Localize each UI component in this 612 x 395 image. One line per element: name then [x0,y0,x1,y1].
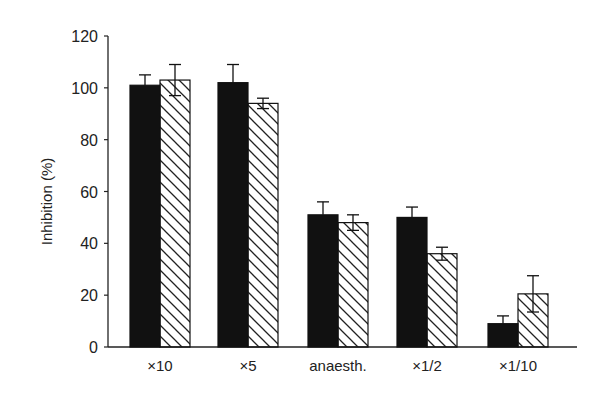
x-category-label: ×1/10 [499,357,537,374]
x-category-label: ×1/2 [412,357,442,374]
y-tick-label: 120 [71,28,98,45]
x-category-label: ×5 [239,357,256,374]
x-category-label: ×10 [147,357,172,374]
bars [130,65,548,347]
labels: 020406080100120Inhibition (%)×10×5anaest… [38,28,537,374]
y-tick-label: 80 [80,132,98,149]
bar-solid [488,324,518,347]
bar-hatched [248,103,278,347]
y-tick-label: 0 [89,339,98,356]
bar-chart: 020406080100120Inhibition (%)×10×5anaest… [0,0,612,395]
bar-solid [308,215,338,347]
y-axis-title: Inhibition (%) [38,158,55,246]
y-tick-label: 60 [80,184,98,201]
y-tick-label: 20 [80,287,98,304]
bar-solid [218,83,248,347]
bar-solid [397,217,427,347]
y-tick-label: 40 [80,235,98,252]
x-category-label: anaesth. [309,357,367,374]
bar-solid [130,85,160,347]
y-tick-label: 100 [71,80,98,97]
bar-hatched [338,223,368,347]
bar-hatched [160,80,190,347]
bar-hatched [427,254,457,347]
